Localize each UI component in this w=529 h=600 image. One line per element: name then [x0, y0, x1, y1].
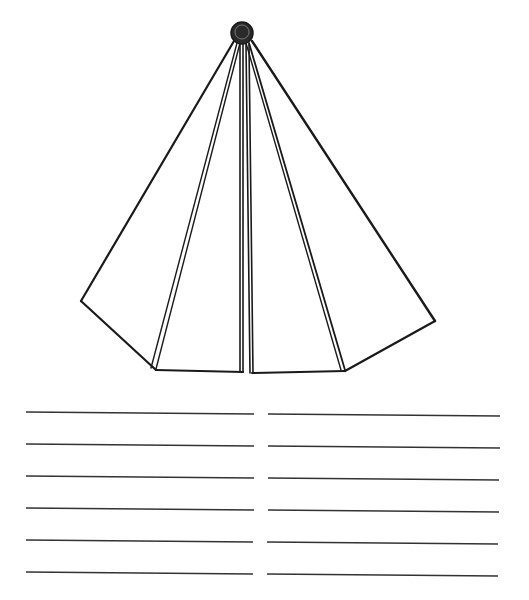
left-outer-edge [81, 41, 234, 301]
writing-line-right-4 [268, 510, 499, 512]
writing-line-left-5 [26, 540, 253, 542]
writing-line-right-1 [268, 414, 500, 416]
writing-line-right-6 [267, 574, 498, 576]
right-inner-edge-b [249, 43, 345, 370]
writing-line-left-6 [26, 572, 253, 574]
writing-line-left-4 [26, 508, 254, 510]
worksheet-canvas [0, 0, 529, 600]
left-inner-edge-a [151, 43, 237, 368]
writing-line-left-1 [26, 412, 254, 414]
left-inner-edge-b [156, 43, 240, 369]
writing-line-right-2 [268, 446, 500, 448]
right-inner-edge-a [246, 43, 341, 370]
writing-line-left-3 [26, 476, 254, 478]
writing-lines-left-column [26, 412, 254, 574]
writing-line-right-5 [267, 542, 498, 544]
right-outer-edge [252, 41, 435, 321]
writing-line-left-2 [26, 444, 254, 446]
writing-line-right-3 [268, 478, 499, 480]
left-base [156, 370, 243, 372]
left-base-slant [81, 301, 156, 370]
pyramid-cone-figure [81, 22, 435, 373]
writing-lines-right-column [267, 414, 500, 576]
right-base [252, 371, 345, 373]
right-base-slant [345, 321, 435, 371]
